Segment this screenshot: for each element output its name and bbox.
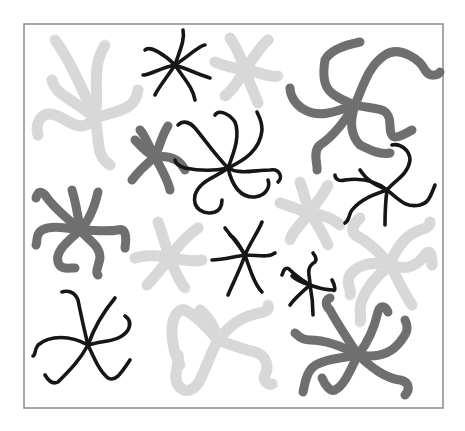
- star-arm-texture: [135, 256, 170, 258]
- star-arm: [385, 190, 387, 225]
- star-polymer-figure: [0, 0, 465, 431]
